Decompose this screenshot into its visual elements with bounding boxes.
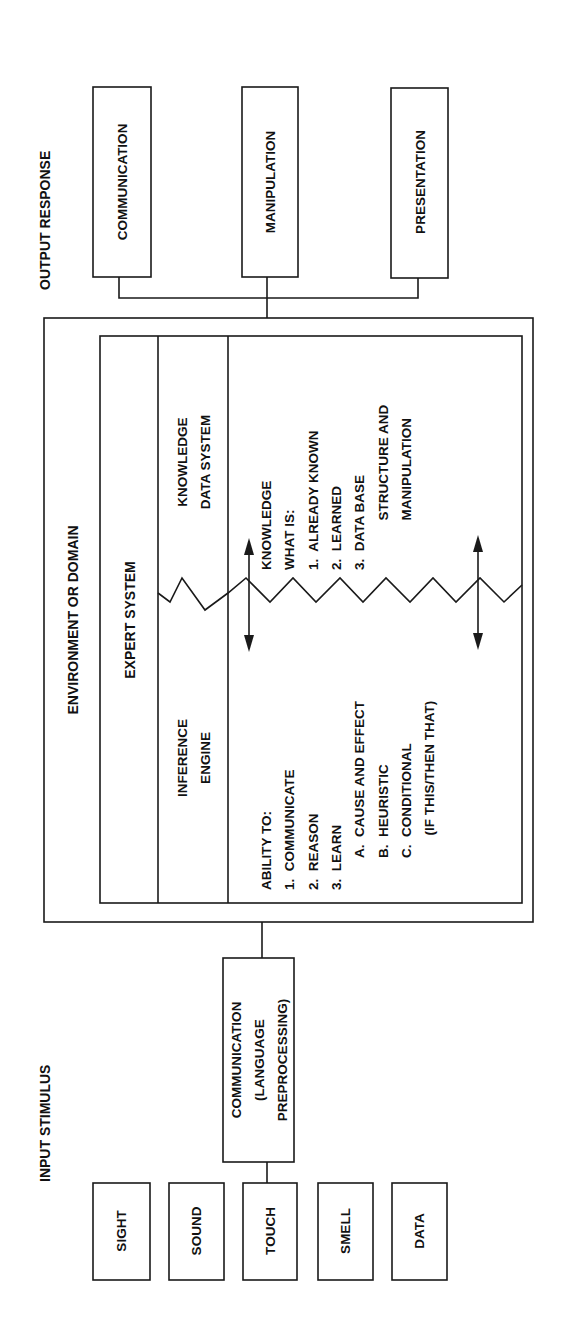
input-box-sight: SIGHT — [93, 1183, 150, 1280]
preprocessing-box: COMMUNICATION (LANGUAGE PREPROCESSING) — [223, 958, 294, 1162]
output-box-manipulation-label: MANIPULATION — [263, 131, 278, 234]
kds-line-7: MANIPULATION — [399, 418, 414, 543]
inference-engine-title-2: ENGINE — [198, 732, 213, 784]
preprocessing-line-3: PREPROCESSING) — [275, 999, 290, 1121]
preprocessing-line-1: COMMUNICATION — [229, 1002, 244, 1119]
ie-line-4: 3. LEARN — [329, 825, 344, 890]
output-response-section: OUTPUT RESPONSE COMMUNICATION MANIPULATI… — [37, 87, 448, 318]
input-box-sight-label: SIGHT — [114, 1210, 129, 1252]
inference-engine-title-1: INFERENCE — [175, 719, 190, 797]
output-box-presentation: PRESENTATION — [391, 88, 448, 278]
preprocessing-line-2: (LANGUAGE — [252, 1019, 267, 1101]
inference-engine-body: ABILITY TO: 1. COMMUNICATE 2. REASON 3. … — [259, 700, 437, 890]
double-arrow-icon — [244, 538, 254, 652]
input-stimulus-section: INPUT STIMULUS COMMUNICATION (LANGUAGE P… — [37, 958, 447, 1280]
output-response-heading: OUTPUT RESPONSE — [37, 151, 53, 290]
knowledge-data-system-body: KNOWLEDGE WHAT IS: 1. ALREADY KNOWN 2. L… — [259, 404, 414, 570]
output-connector-lines — [119, 277, 418, 318]
input-box-touch: TOUCH — [243, 1183, 297, 1280]
ie-line-1: ABILITY TO: — [259, 811, 274, 890]
kds-line-1: KNOWLEDGE — [259, 481, 274, 570]
knowledge-data-system-title-1: KNOWLEDGE — [175, 417, 190, 506]
expert-system-box: EXPERT SYSTEM INFERENCE ENGINE KNOWLEDGE… — [100, 336, 522, 903]
environment-heading: ENVIRONMENT OR DOMAIN — [65, 526, 81, 715]
kds-line-3: 1. ALREADY KNOWN — [306, 430, 321, 570]
double-arrow-icon — [473, 535, 483, 650]
input-box-data-label: DATA — [412, 1213, 427, 1249]
kds-line-4: 2. LEARNED — [329, 486, 344, 570]
output-box-communication-label: COMMUNICATION — [115, 124, 130, 241]
kds-line-5: 3. DATA BASE — [352, 475, 367, 570]
environment-section: ENVIRONMENT OR DOMAIN EXPERT SYSTEM INFE… — [44, 318, 533, 958]
zigzag-divider — [158, 578, 522, 610]
ie-line-5: A. CAUSE AND EFFECT — [352, 700, 367, 858]
input-box-smell-label: SMELL — [338, 1208, 353, 1254]
input-box-sound: SOUND — [169, 1183, 224, 1280]
kds-line-2: WHAT IS: — [282, 510, 297, 571]
input-box-smell: SMELL — [318, 1183, 373, 1280]
input-box-data: DATA — [392, 1183, 447, 1280]
input-stimulus-heading: INPUT STIMULUS — [37, 1065, 53, 1182]
expert-system-diagram: OUTPUT RESPONSE COMMUNICATION MANIPULATI… — [0, 0, 565, 1342]
ie-line-7: C. CONDITIONAL — [399, 743, 414, 858]
input-box-touch-label: TOUCH — [263, 1207, 278, 1255]
output-box-manipulation: MANIPULATION — [242, 87, 298, 277]
output-box-presentation-label: PRESENTATION — [413, 130, 428, 234]
ie-line-8: (IF THIS/THEN THAT) — [422, 701, 437, 858]
expert-system-heading: EXPERT SYSTEM — [122, 561, 138, 678]
ie-line-2: 1. COMMUNICATE — [282, 770, 297, 891]
ie-line-6: B. HEURISTIC — [376, 764, 391, 858]
knowledge-data-system-title-2: DATA SYSTEM — [198, 415, 213, 509]
input-box-sound-label: SOUND — [189, 1206, 204, 1255]
kds-line-6: STRUCTURE AND — [376, 404, 391, 543]
ie-line-3: 2. REASON — [306, 813, 321, 890]
output-box-communication: COMMUNICATION — [93, 87, 151, 277]
